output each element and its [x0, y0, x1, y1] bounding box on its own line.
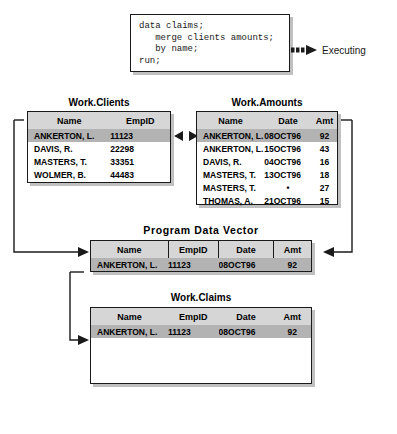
amounts-caption: Work.Amounts	[196, 97, 338, 108]
cell-date: 15OCT96	[264, 142, 312, 155]
claims-caption: Work.Claims	[90, 292, 312, 303]
column-header-date: Date	[219, 308, 274, 325]
cell-empid: 44483	[110, 168, 170, 181]
cell-name: WOLMER, B.	[28, 168, 110, 181]
clients-caption: Work.Clients	[27, 97, 171, 108]
cell-date: 08OCT96	[219, 258, 274, 271]
column-header-amt: Amt	[274, 241, 311, 258]
cell-date: •	[264, 181, 312, 194]
clients-to-pdv-arrowhead	[78, 247, 89, 257]
cell-amt: 27	[312, 181, 337, 194]
cell-amt: 43	[312, 142, 337, 155]
table-header-row: Name EmpID Date Amt	[91, 241, 311, 258]
table-row: DAVIS, R. 22298	[28, 142, 170, 155]
cell-name: MASTERS, T.	[197, 181, 264, 194]
pdv-table: Name EmpID Date Amt ANKERTON, L. 11123 0…	[91, 241, 311, 271]
code-text: data claims; merge clients amounts; by n…	[131, 15, 289, 67]
table-row: ANKERTON, L. 11123	[28, 129, 170, 142]
cell-date: 13OCT96	[264, 168, 312, 181]
column-header-name: Name	[91, 241, 168, 258]
table-row: ANKERTON, L. 08OCT96 92	[197, 129, 337, 142]
table-row: MASTERS, T. 33351	[28, 155, 170, 168]
amounts-to-pdv-arrowhead	[323, 247, 334, 257]
cell-date: 08OCT96	[264, 129, 312, 142]
table-row: ANKERTON, L. 11123 08OCT96 92	[91, 258, 311, 271]
table-row: THOMAS, A. 21OCT96 15	[197, 194, 337, 207]
cell-name: ANKERTON, L.	[91, 325, 168, 338]
code-block: data claims; merge clients amounts; by n…	[130, 14, 290, 72]
table-header-row: Name EmpID Date Amt	[91, 308, 311, 325]
column-header-date: Date	[219, 241, 274, 258]
cell-amt: 15	[312, 194, 337, 207]
cell-name: DAVIS, R.	[197, 155, 264, 168]
cell-name: ANKERTON, L.	[91, 258, 168, 271]
column-header-name: Name	[28, 112, 110, 129]
cell-empid: 22298	[110, 142, 170, 155]
cell-amt: 92	[312, 129, 337, 142]
table-header-row: Name EmpID	[28, 112, 170, 129]
cell-name: MASTERS, T.	[28, 155, 110, 168]
cell-empid: 11123	[168, 325, 219, 338]
column-header-empid: EmpID	[110, 112, 170, 129]
cell-name: MASTERS, T.	[197, 168, 264, 181]
cell-amt: 92	[274, 258, 311, 271]
table-row: MASTERS, T. • 27	[197, 181, 337, 194]
claims-table: Name EmpID Date Amt ANKERTON, L. 11123 0…	[91, 308, 311, 338]
left-triangle-icon	[174, 131, 183, 141]
cell-amt: 18	[312, 168, 337, 181]
column-header-empid: EmpID	[168, 308, 219, 325]
column-header-amt: Amt	[274, 308, 311, 325]
amounts-table-box: Name Date Amt ANKERTON, L. 08OCT96 92 AN…	[196, 111, 338, 205]
cell-name: ANKERTON, L.	[197, 129, 264, 142]
cell-amt: 92	[274, 325, 311, 338]
cell-amt: 16	[312, 155, 337, 168]
pdv-table-box: Name EmpID Date Amt ANKERTON, L. 11123 0…	[90, 240, 312, 272]
table-row: DAVIS, R. 04OCT96 16	[197, 155, 337, 168]
pdv-caption: Program Data Vector	[90, 224, 312, 236]
column-header-empid: EmpID	[168, 241, 219, 258]
amounts-table: Name Date Amt ANKERTON, L. 08OCT96 92 AN…	[197, 112, 337, 207]
cell-date: 04OCT96	[264, 155, 312, 168]
executing-label: Executing	[322, 45, 366, 56]
table-row: ANKERTON, L. 15OCT96 43	[197, 142, 337, 155]
clients-table: Name EmpID ANKERTON, L. 11123 DAVIS, R. …	[28, 112, 170, 181]
execution-status: Executing	[291, 43, 366, 57]
pdv-to-claims-arrowhead	[78, 335, 89, 345]
diagram-canvas: data claims; merge clients amounts; by n…	[0, 0, 397, 434]
pdv-to-claims-line	[70, 272, 78, 340]
dashed-right-arrow-icon	[291, 44, 319, 56]
column-header-date: Date	[264, 112, 312, 129]
cell-name: THOMAS, A.	[197, 194, 264, 207]
cell-name: DAVIS, R.	[28, 142, 110, 155]
table-header-row: Name Date Amt	[197, 112, 337, 129]
cell-name: ANKERTON, L.	[197, 142, 264, 155]
cell-date: 08OCT96	[219, 325, 274, 338]
cell-empid: 11123	[168, 258, 219, 271]
merge-indicator	[174, 130, 198, 142]
claims-table-box: Name EmpID Date Amt ANKERTON, L. 11123 0…	[90, 307, 312, 384]
column-header-name: Name	[197, 112, 264, 129]
cell-empid: 11123	[110, 129, 170, 142]
table-row: ANKERTON, L. 11123 08OCT96 92	[91, 325, 311, 338]
cell-name: ANKERTON, L.	[28, 129, 110, 142]
table-row: WOLMER, B. 44483	[28, 168, 170, 181]
clients-table-box: Name EmpID ANKERTON, L. 11123 DAVIS, R. …	[27, 111, 171, 183]
table-row: MASTERS, T. 13OCT96 18	[197, 168, 337, 181]
cell-date: 21OCT96	[264, 194, 312, 207]
column-header-name: Name	[91, 308, 168, 325]
column-header-amt: Amt	[312, 112, 337, 129]
cell-empid: 33351	[110, 155, 170, 168]
